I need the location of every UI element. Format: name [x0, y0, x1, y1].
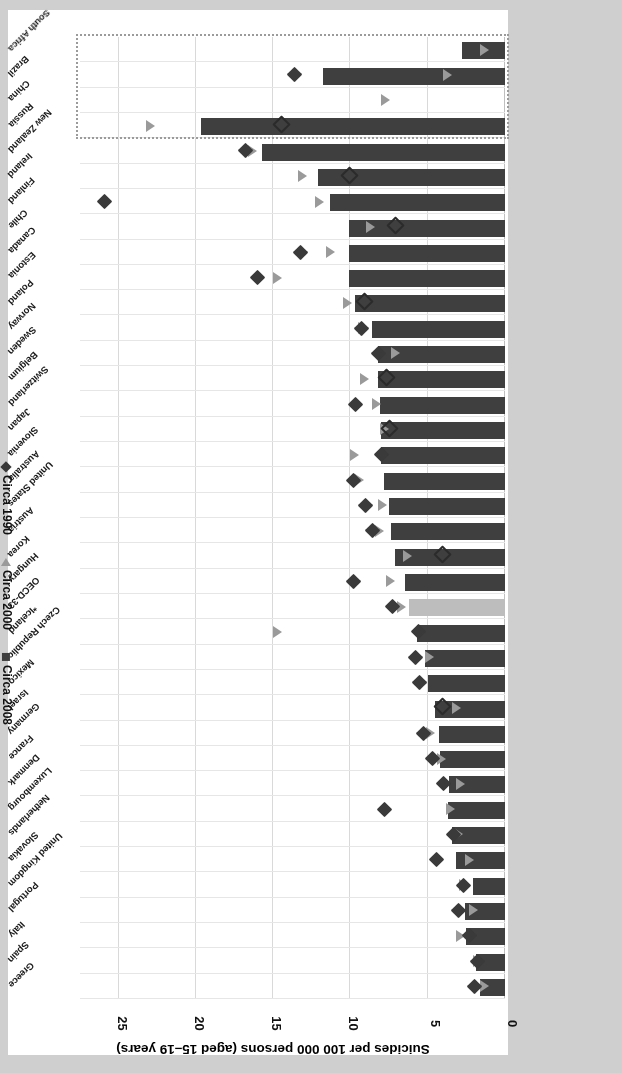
- bar-circa-2008: [201, 118, 505, 135]
- bar-row: [80, 88, 505, 113]
- marker-circa-2000: [469, 904, 478, 916]
- row-separator: [80, 441, 505, 442]
- chart-legend: Circa 2008Circa 2000Circa 1990: [14, 435, 38, 725]
- plot-area: [80, 37, 505, 999]
- marker-circa-1990: [347, 396, 363, 412]
- row-separator: [80, 973, 505, 974]
- square-icon: [2, 653, 10, 661]
- bar-row: [80, 872, 505, 897]
- bar-circa-2008: [381, 447, 505, 464]
- row-separator: [80, 644, 505, 645]
- x-tick-label: 25: [115, 1016, 130, 1030]
- row-separator: [80, 365, 505, 366]
- row-separator: [80, 795, 505, 796]
- bar-row: [80, 37, 505, 62]
- row-separator: [80, 61, 505, 62]
- bar-circa-2008: [355, 295, 505, 312]
- legend-item: Circa 1990: [0, 463, 14, 535]
- row-separator: [80, 821, 505, 822]
- row-separator: [80, 770, 505, 771]
- bar-circa-2008: [440, 751, 505, 768]
- bar-row: [80, 442, 505, 467]
- row-separator: [80, 188, 505, 189]
- bar-row: [80, 796, 505, 821]
- x-tick-label: 15: [269, 1016, 284, 1030]
- bar-row: [80, 822, 505, 847]
- legend-label: Circa 2000: [0, 570, 14, 630]
- bar-row: [80, 569, 505, 594]
- bar-circa-2008: [409, 599, 505, 616]
- bar-row: [80, 62, 505, 87]
- row-separator: [80, 289, 505, 290]
- bar-circa-2008: [456, 852, 505, 869]
- marker-circa-2000: [372, 398, 381, 410]
- bar-circa-2008: [380, 397, 505, 414]
- x-tick-label: 20: [192, 1016, 207, 1030]
- row-separator: [80, 416, 505, 417]
- marker-circa-2000: [350, 449, 359, 461]
- bar-row: [80, 974, 505, 999]
- row-separator: [80, 871, 505, 872]
- bar-circa-2008: [378, 371, 505, 388]
- row-separator: [80, 492, 505, 493]
- legend-item: Circa 2008: [0, 653, 14, 725]
- category-label: Italy: [6, 919, 27, 940]
- marker-circa-2000: [446, 803, 455, 815]
- bar-circa-2008: [391, 523, 505, 540]
- bar-row: [80, 290, 505, 315]
- axis-title: Suicides per 100 000 persons (aged 15–19…: [38, 1042, 508, 1057]
- bar-row: [80, 923, 505, 948]
- bar-row: [80, 315, 505, 340]
- category-label: South Africa: [6, 7, 53, 54]
- bar-circa-2008: [405, 574, 505, 591]
- marker-circa-2000: [386, 575, 395, 587]
- bar-circa-2008: [389, 498, 505, 515]
- marker-circa-2000: [403, 550, 412, 562]
- bar-row: [80, 391, 505, 416]
- row-separator: [80, 213, 505, 214]
- marker-circa-1990: [358, 498, 374, 514]
- x-axis-ticks: 0510152025: [80, 1003, 508, 1037]
- marker-circa-2000: [298, 170, 307, 182]
- marker-circa-2000: [315, 196, 324, 208]
- row-separator: [80, 163, 505, 164]
- row-separator: [80, 314, 505, 315]
- row-separator: [80, 947, 505, 948]
- bar-circa-2008: [448, 802, 505, 819]
- marker-circa-1990: [97, 194, 113, 210]
- bar-circa-2008: [473, 878, 505, 895]
- category-label: Greece: [6, 961, 36, 991]
- x-tick-label: 0: [505, 1020, 520, 1027]
- row-separator: [80, 694, 505, 695]
- legend-label: Circa 1990: [0, 475, 14, 535]
- marker-circa-1990: [287, 67, 303, 83]
- marker-circa-2000: [381, 94, 390, 106]
- row-separator: [80, 340, 505, 341]
- row-separator: [80, 998, 505, 999]
- row-separator: [80, 517, 505, 518]
- bar-circa-2008: [330, 194, 505, 211]
- bar-circa-2008: [417, 625, 505, 642]
- row-separator: [80, 568, 505, 569]
- bar-row: [80, 189, 505, 214]
- marker-circa-2000: [452, 702, 461, 714]
- category-label: Brazil: [6, 54, 32, 80]
- marker-circa-2000: [273, 626, 282, 638]
- marker-circa-1990: [408, 649, 424, 665]
- marker-circa-2000: [360, 373, 369, 385]
- bar-circa-2008: [439, 726, 505, 743]
- bar-row: [80, 113, 505, 138]
- row-separator: [80, 846, 505, 847]
- bar-circa-2008: [323, 68, 505, 85]
- marker-circa-2000: [465, 854, 474, 866]
- marker-circa-2000: [326, 246, 335, 258]
- marker-circa-2000: [366, 221, 375, 233]
- row-separator: [80, 390, 505, 391]
- row-separator: [80, 137, 505, 138]
- x-tick-label: 5: [428, 1020, 443, 1027]
- bar-row: [80, 164, 505, 189]
- row-separator: [80, 87, 505, 88]
- bar-row: [80, 138, 505, 163]
- marker-circa-2000: [391, 347, 400, 359]
- bar-circa-2008: [425, 650, 505, 667]
